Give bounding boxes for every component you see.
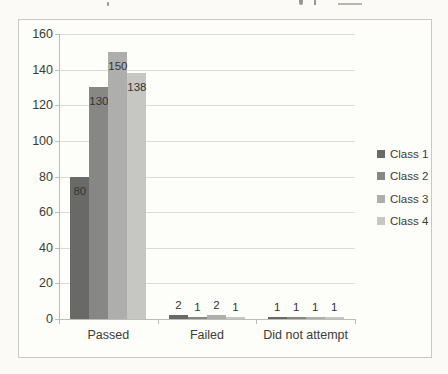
legend-label: Class 2	[390, 169, 428, 183]
cropped-text-fragment	[299, 0, 303, 5]
y-axis-tick-label: 100	[21, 134, 53, 149]
x-axis-tick	[256, 319, 257, 324]
gridline	[59, 34, 355, 35]
cropped-text-fragment	[338, 3, 362, 5]
legend-item: Class 4	[377, 214, 428, 228]
x-axis-category-label: Failed	[158, 328, 256, 343]
y-axis-tick-label: 20	[21, 276, 53, 291]
legend-label: Class 3	[390, 192, 428, 206]
legend-item: Class 1	[377, 147, 428, 161]
y-axis-tick-label: 0	[21, 312, 53, 327]
data-label: 1	[318, 301, 350, 314]
legend-swatch	[377, 195, 385, 203]
legend-label: Class 1	[390, 147, 428, 161]
y-axis-tick-label: 140	[21, 63, 53, 78]
x-axis-tick	[158, 319, 159, 324]
y-axis-line	[59, 34, 60, 319]
data-label: 150	[102, 60, 134, 73]
legend-item: Class 3	[377, 192, 428, 206]
y-axis-tick-label: 120	[21, 98, 53, 113]
y-axis-tick-label: 160	[21, 27, 53, 42]
x-axis-tick	[59, 319, 60, 324]
legend-swatch	[377, 217, 385, 225]
cropped-text-fragment	[314, 0, 316, 5]
data-label: 138	[121, 81, 153, 94]
y-axis-tick-label: 80	[21, 170, 53, 185]
bar-class-2-passed	[89, 87, 108, 319]
bar-class-1-passed	[70, 177, 89, 320]
y-axis-tick-label: 40	[21, 241, 53, 256]
x-axis-line	[55, 319, 355, 320]
x-axis-category-label: Did not attempt	[257, 328, 355, 343]
scanned-page: 02040608010012014016080130150138Passed21…	[0, 0, 448, 374]
bar-class-4-passed	[127, 73, 146, 319]
legend-label: Class 4	[390, 214, 428, 228]
x-axis-tick	[355, 319, 356, 324]
legend-swatch	[377, 172, 385, 180]
bar-chart: 02040608010012014016080130150138Passed21…	[18, 19, 432, 358]
data-label: 1	[220, 301, 252, 314]
y-axis-tick-label: 60	[21, 205, 53, 220]
x-axis-category-label: Passed	[59, 328, 157, 343]
legend-swatch	[377, 150, 385, 158]
cropped-text-fragment	[107, 2, 109, 6]
legend-item: Class 2	[377, 169, 428, 183]
